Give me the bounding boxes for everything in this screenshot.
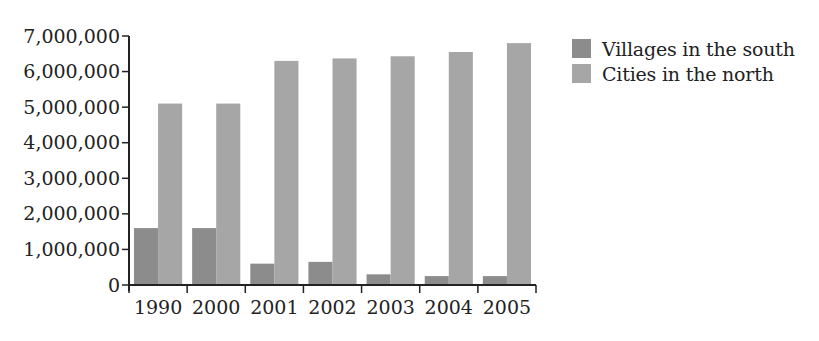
bar-villages-2003 xyxy=(367,274,391,285)
x-tick-label: 2000 xyxy=(192,296,240,318)
y-tick-label: 3,000,000 xyxy=(23,167,120,189)
bar-cities-2001 xyxy=(274,61,298,285)
y-axis: 01,000,0002,000,0003,000,0004,000,0005,0… xyxy=(23,25,129,296)
bar-cities-2000 xyxy=(216,104,240,285)
y-tick-label: 5,000,000 xyxy=(23,96,120,118)
bar-villages-2004 xyxy=(425,276,449,285)
legend: Villages in the south Cities in the nort… xyxy=(572,36,795,86)
y-tick-label: 4,000,000 xyxy=(23,131,120,153)
bar-cities-2003 xyxy=(391,56,415,285)
y-tick-label: 2,000,000 xyxy=(23,202,120,224)
x-tick-label: 2005 xyxy=(483,296,531,318)
bar-villages-2002 xyxy=(308,262,332,285)
bar-cities-1990 xyxy=(158,104,182,285)
x-tick-label: 2004 xyxy=(425,296,473,318)
legend-item-villages: Villages in the south xyxy=(572,36,795,61)
x-axis: 1990200020012002200320042005 xyxy=(129,285,536,318)
bar-villages-2000 xyxy=(192,228,216,285)
x-tick-label: 1990 xyxy=(134,296,182,318)
x-tick-label: 2001 xyxy=(250,296,298,318)
legend-item-cities: Cities in the north xyxy=(572,61,795,86)
bar-villages-2005 xyxy=(483,276,507,285)
bar-cities-2002 xyxy=(333,58,357,285)
legend-swatch-cities xyxy=(572,64,591,83)
legend-swatch-villages xyxy=(572,39,591,58)
y-tick-label: 7,000,000 xyxy=(23,25,120,47)
bar-cities-2004 xyxy=(449,52,473,285)
x-tick-label: 2003 xyxy=(366,296,414,318)
bar-villages-2001 xyxy=(250,264,274,285)
y-tick-label: 6,000,000 xyxy=(23,60,120,82)
x-tick-label: 2002 xyxy=(308,296,356,318)
bar-villages-1990 xyxy=(134,228,158,285)
legend-label-cities: Cities in the north xyxy=(602,63,774,85)
bars xyxy=(134,43,531,285)
bar-cities-2005 xyxy=(507,43,531,285)
legend-label-villages: Villages in the south xyxy=(602,38,795,60)
y-tick-label: 1,000,000 xyxy=(23,238,120,260)
y-tick-label: 0 xyxy=(108,274,120,296)
